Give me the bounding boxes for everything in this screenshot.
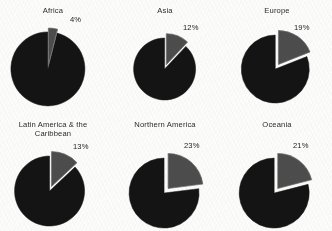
pie-graphic [222, 6, 332, 118]
slice-percentage-label: 12% [183, 23, 199, 32]
pie-slice-remainder [11, 32, 85, 106]
slice-percentage-label: 21% [293, 141, 309, 150]
pie-graphic [0, 6, 110, 118]
pie-graphic [110, 6, 222, 118]
pie-slice-remainder [15, 156, 85, 226]
pie-graphic [110, 120, 222, 231]
pie-graphic [222, 120, 332, 231]
slice-percentage-label: 13% [73, 142, 89, 151]
pie-slice-remainder [134, 38, 196, 100]
pie-graphic [0, 120, 110, 231]
slice-percentage-label: 19% [294, 23, 310, 32]
pie-slice-highlight [278, 153, 312, 188]
pie-chart-grid: Africa4%Asia12%Europe19%Latin America & … [0, 0, 332, 231]
slice-percentage-label: 4% [70, 15, 81, 24]
pie-slice-highlight [168, 153, 203, 188]
slice-percentage-label: 23% [184, 141, 200, 150]
